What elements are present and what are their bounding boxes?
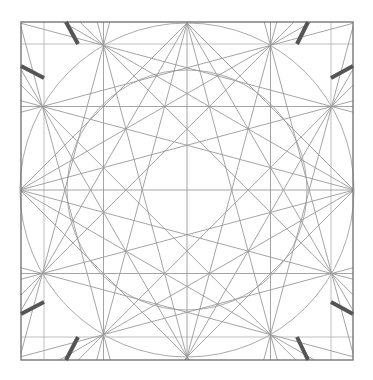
- thick-mark: [66, 22, 78, 44]
- star-line: [185, 69, 353, 360]
- geometric-diagram: [0, 0, 373, 380]
- star-line: [264, 27, 353, 360]
- thick-mark: [297, 22, 308, 44]
- star-line: [78, 85, 353, 360]
- center-axes: [21, 22, 353, 360]
- star-line: [80, 22, 353, 295]
- star-line: [97, 22, 188, 360]
- star-line: [21, 69, 189, 360]
- star-line: [21, 22, 311, 189]
- thick-mark: [66, 337, 78, 360]
- star-line: [21, 22, 294, 295]
- star-line: [21, 27, 110, 360]
- thick-mark: [297, 337, 308, 360]
- star-line: [21, 85, 296, 360]
- star-line: [186, 22, 277, 360]
- star-line: [63, 22, 353, 189]
